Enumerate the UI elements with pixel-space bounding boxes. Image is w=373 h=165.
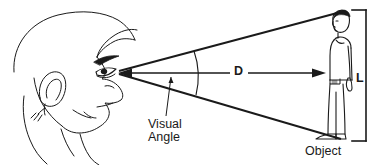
ear-outer bbox=[39, 72, 65, 107]
visual-angle-diagram bbox=[0, 0, 373, 165]
ear-lobe bbox=[44, 104, 45, 115]
cheek-line bbox=[73, 110, 91, 118]
visual-angle-label-line2: Angle bbox=[148, 131, 182, 144]
object-torso-front bbox=[330, 40, 334, 80]
object-hair bbox=[333, 10, 350, 20]
visual-angle-label: Visual Angle bbox=[148, 118, 182, 144]
object-belt-buckle bbox=[332, 81, 337, 83]
neck-front-line bbox=[80, 134, 99, 165]
distance-label: D bbox=[234, 65, 243, 78]
skull-outline bbox=[14, 12, 135, 72]
nostril bbox=[105, 86, 114, 88]
object-arm-crease bbox=[348, 46, 350, 78]
distance-arrowhead-right bbox=[312, 69, 326, 78]
eyebrow bbox=[94, 56, 119, 65]
visual-angle-leader-arrowhead bbox=[169, 77, 174, 83]
standing-person-object bbox=[316, 10, 352, 139]
object-leg-back bbox=[343, 84, 345, 134]
eye-pupil bbox=[101, 69, 107, 75]
neck-shadow-line bbox=[61, 129, 74, 156]
ear-inner-fold bbox=[46, 79, 61, 100]
hairline-contour bbox=[97, 39, 135, 57]
visual-angle-label-line1: Visual bbox=[148, 118, 182, 131]
forehead-brow-line bbox=[97, 29, 137, 57]
observer-head-profile bbox=[14, 12, 137, 165]
object-height-label: L bbox=[356, 72, 364, 85]
object-collar bbox=[336, 40, 344, 43]
hair-stroke-1 bbox=[31, 113, 36, 118]
hair-stroke-3 bbox=[38, 115, 42, 121]
diagram-canvas: D L Visual Angle Object bbox=[0, 0, 373, 165]
object-label: Object bbox=[305, 145, 341, 158]
object-leg-front bbox=[328, 84, 330, 134]
upper-sight-ray bbox=[119, 12, 341, 71]
object-torso-back bbox=[351, 48, 352, 80]
